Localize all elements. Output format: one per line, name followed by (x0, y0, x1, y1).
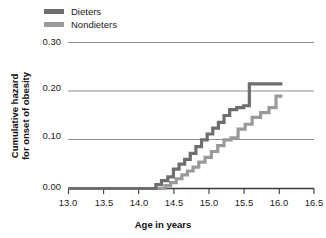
x-tick-label-15-0: 15.0 (194, 197, 224, 208)
x-tick-label-13-0: 13.0 (53, 197, 83, 208)
x-tick-label-14-5: 14.5 (159, 197, 189, 208)
cumulative-hazard-chart: Dieters Nondieters Cumulative hazard for… (0, 0, 326, 238)
x-tick-label-13-5: 13.5 (89, 197, 119, 208)
x-tick-label-16-5: 16.5 (299, 197, 326, 208)
x-tick-label-15-5: 15.5 (229, 197, 259, 208)
series-line-nondieters (68, 96, 282, 188)
x-tick-label-14-0: 14.0 (124, 197, 154, 208)
x-tick-label-16-0: 16.0 (264, 197, 294, 208)
series-line-dieters (68, 84, 282, 189)
x-axis-title: Age in years (0, 219, 326, 230)
